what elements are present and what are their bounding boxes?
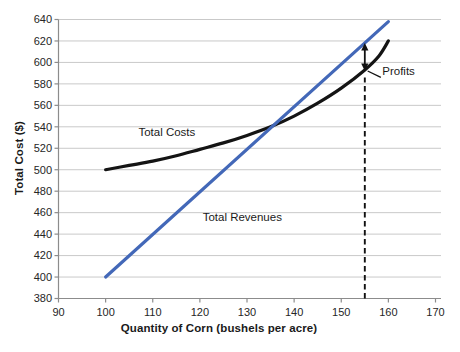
y-tick-labels: 3804004204404604805005205405605806006206… xyxy=(34,13,59,304)
y-tick-label-460: 460 xyxy=(34,206,52,218)
y-tick-label-500: 500 xyxy=(34,164,52,176)
x-tick-label-90: 90 xyxy=(52,306,64,318)
y-tick-label-480: 480 xyxy=(34,185,52,197)
profits-label: Profits xyxy=(382,65,415,77)
x-tick-label-150: 150 xyxy=(332,306,350,318)
axes xyxy=(59,20,442,299)
total-costs-label: Total Costs xyxy=(138,126,195,138)
profits-pointer-line xyxy=(368,71,381,77)
x-tick-label-100: 100 xyxy=(96,306,114,318)
y-tick-label-520: 520 xyxy=(34,142,52,154)
corn-profit-chart: 3804004204404604805005205405605806006206… xyxy=(0,0,460,352)
x-tick-labels: 90100110120130140150160170 xyxy=(52,299,444,319)
x-tick-label-110: 110 xyxy=(144,306,162,318)
chart-plot-area: 3804004204404604805005205405605806006206… xyxy=(0,0,460,352)
x-axis-title: Quantity of Corn (bushels per acre) xyxy=(0,322,438,334)
x-tick-label-120: 120 xyxy=(191,306,209,318)
x-tick-label-170: 170 xyxy=(426,306,444,318)
y-tick-label-380: 380 xyxy=(34,292,52,304)
y-tick-label-640: 640 xyxy=(34,13,52,25)
total-revenues-line xyxy=(106,22,389,277)
y-tick-label-600: 600 xyxy=(34,56,52,68)
y-tick-label-420: 420 xyxy=(34,249,52,261)
y-tick-label-440: 440 xyxy=(34,228,52,240)
x-tick-label-140: 140 xyxy=(285,306,303,318)
x-tick-label-160: 160 xyxy=(379,306,397,318)
total-revenues-label: Total Revenues xyxy=(203,211,283,223)
y-tick-label-400: 400 xyxy=(34,271,52,283)
y-tick-label-540: 540 xyxy=(34,121,52,133)
x-tick-label-130: 130 xyxy=(238,306,256,318)
y-tick-label-560: 560 xyxy=(34,99,52,111)
gridlines xyxy=(59,20,442,299)
y-tick-label-580: 580 xyxy=(34,78,52,90)
y-tick-label-620: 620 xyxy=(34,35,52,47)
